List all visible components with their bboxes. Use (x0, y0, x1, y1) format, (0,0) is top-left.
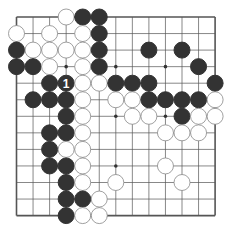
black-stone (58, 158, 74, 174)
black-stone-icon (141, 92, 157, 108)
black-stone (207, 75, 223, 91)
white-stone (75, 108, 91, 124)
black-stone (141, 92, 157, 108)
black-stone (191, 92, 207, 108)
black-stone-icon (58, 125, 74, 141)
white-stone (25, 42, 41, 58)
white-stone-icon (75, 141, 91, 157)
move-number-label: 1 (63, 77, 70, 91)
white-stone (75, 125, 91, 141)
white-stone-icon (141, 108, 157, 124)
white-stone (124, 92, 140, 108)
white-stone (75, 42, 91, 58)
black-stone-icon (9, 59, 25, 75)
star-point-icon (164, 115, 168, 119)
white-stone (75, 208, 91, 224)
black-stone (75, 9, 91, 25)
black-stone (42, 158, 58, 174)
white-stone (191, 125, 207, 141)
white-stone (108, 92, 124, 108)
black-stone-icon (141, 75, 157, 91)
white-stone-icon (58, 9, 74, 25)
black-stone-icon (42, 75, 58, 91)
white-stone-icon (25, 42, 41, 58)
white-stone-icon (207, 92, 223, 108)
black-stone-icon (91, 42, 107, 58)
black-stone-icon (58, 191, 74, 207)
white-stone-icon (75, 59, 91, 75)
black-stone (157, 92, 173, 108)
black-stone-icon (42, 125, 58, 141)
black-stone-icon (141, 42, 157, 58)
white-stone (191, 108, 207, 124)
black-stone-icon (42, 92, 58, 108)
white-stone-icon (75, 26, 91, 42)
black-stone (91, 9, 107, 25)
white-stone-icon (91, 191, 107, 207)
white-stone-icon (75, 208, 91, 224)
white-stone-icon (124, 92, 140, 108)
white-stone (75, 141, 91, 157)
white-stone (91, 75, 107, 91)
black-stone (25, 92, 41, 108)
white-stone-icon (108, 175, 124, 191)
black-stone-icon (58, 175, 74, 191)
black-stone-icon (58, 208, 74, 224)
white-stone (157, 158, 173, 174)
white-stone (42, 42, 58, 58)
black-stone-icon (174, 42, 190, 58)
white-stone (75, 26, 91, 42)
white-stone-icon (91, 208, 107, 224)
white-stone (42, 26, 58, 42)
black-stone-icon (75, 191, 91, 207)
white-stone-icon (75, 158, 91, 174)
white-stone-icon (75, 175, 91, 191)
white-stone-icon (191, 125, 207, 141)
black-stone-icon (91, 26, 107, 42)
black-stone (25, 59, 41, 75)
black-stone (42, 75, 58, 91)
white-stone (207, 108, 223, 124)
white-stone (157, 125, 173, 141)
black-stone (58, 208, 74, 224)
black-stone-icon (75, 9, 91, 25)
star-point-icon (164, 65, 168, 69)
white-stone-icon (174, 125, 190, 141)
white-stone (141, 108, 157, 124)
black-stone (174, 108, 190, 124)
white-stone-icon (75, 108, 91, 124)
white-stone-icon (58, 141, 74, 157)
black-stone-icon (174, 92, 190, 108)
white-stone (42, 59, 58, 75)
white-stone-icon (191, 108, 207, 124)
white-stone (91, 208, 107, 224)
white-stone (207, 92, 223, 108)
black-stone (91, 42, 107, 58)
black-stone-icon (191, 59, 207, 75)
white-stone-icon (75, 92, 91, 108)
black-stone (141, 42, 157, 58)
star-point-icon (114, 164, 118, 168)
black-stone (124, 75, 140, 91)
black-stone (108, 75, 124, 91)
black-stone (58, 175, 74, 191)
white-stone-icon (124, 108, 140, 124)
black-stone-icon (58, 158, 74, 174)
white-stone-icon (75, 42, 91, 58)
white-stone-icon (9, 26, 25, 42)
white-stone-icon (58, 42, 74, 58)
white-stone-icon (157, 125, 173, 141)
black-stone (42, 92, 58, 108)
black-stone (91, 26, 107, 42)
white-stone (124, 108, 140, 124)
black-stone-icon (58, 108, 74, 124)
white-stone-icon (174, 175, 190, 191)
white-stone (75, 59, 91, 75)
black-stone (42, 141, 58, 157)
white-stone (75, 75, 91, 91)
black-stone (75, 191, 91, 207)
white-stone (9, 26, 25, 42)
black-stone (91, 59, 107, 75)
white-stone-icon (207, 108, 223, 124)
white-stone (58, 141, 74, 157)
